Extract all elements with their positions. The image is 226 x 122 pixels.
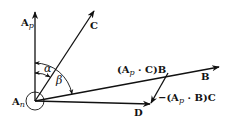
label-c: C	[90, 20, 98, 31]
label-origin: An	[11, 96, 25, 109]
label-apb-c: −(Ap · B)C	[158, 92, 216, 105]
vector-diagram: Ap C α β An B D (Ap · C)B −(Ap · B)C	[0, 0, 226, 122]
label-beta: β	[55, 74, 62, 87]
vector-c	[35, 11, 94, 101]
label-d: D	[134, 107, 143, 118]
vector-d	[35, 101, 150, 104]
label-b: B	[201, 71, 209, 82]
angle-beta-arc	[35, 63, 72, 94]
label-alpha: α	[44, 62, 52, 75]
label-ap: Ap	[20, 17, 34, 30]
label-apc-b: (Ap · C)B	[117, 64, 166, 77]
